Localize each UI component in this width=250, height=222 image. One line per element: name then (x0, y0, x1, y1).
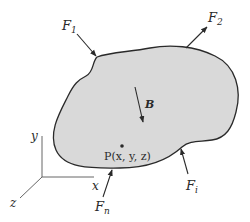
label-fn: Fn (94, 199, 110, 216)
label-z-axis: z (9, 196, 17, 210)
label-b: B (144, 98, 154, 111)
label-f2: F2 (207, 10, 223, 27)
label-f1: F1 (61, 18, 77, 35)
force-arrow-fi (181, 149, 188, 174)
label-fi: Fi (185, 178, 198, 195)
force-arrow-fn (103, 170, 112, 197)
point-p (120, 144, 124, 148)
force-arrow-f2 (186, 27, 207, 48)
force-arrow-f1 (77, 34, 96, 56)
z-axis (20, 177, 42, 198)
rigid-body-force-diagram: F1 F2 Fi Fn B P(x, y, z) y x z (0, 0, 250, 222)
label-point-p: P(x, y, z) (104, 150, 151, 163)
label-y-axis: y (30, 129, 38, 143)
label-x-axis: x (92, 179, 99, 193)
